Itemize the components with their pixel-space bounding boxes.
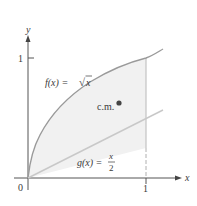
x-tick-label-1: 1 [143,183,148,194]
x-axis-arrow-icon [175,176,182,181]
center-of-mass-diagram: y x 0 1 1 f(x) = √ x c.m. g(x) = x 2 [0,0,197,206]
g-label-text: g(x) = [77,157,102,169]
center-of-mass-label: c.m. [97,101,114,112]
f-label-text: f(x) = [45,77,68,89]
y-axis-arrow-icon [26,35,31,42]
center-of-mass-dot [116,100,121,105]
g-label-numerator: x [108,151,113,161]
y-tick-label-1: 1 [18,53,23,64]
y-axis-label: y [25,24,31,35]
x-axis-label: x [184,172,190,183]
f-label: f(x) = √ x [45,76,92,89]
sqrt-radical-icon: √ [79,76,86,88]
origin-label: 0 [18,182,23,193]
g-label-denominator: 2 [109,163,114,173]
f-label-radicand: x [85,77,91,88]
